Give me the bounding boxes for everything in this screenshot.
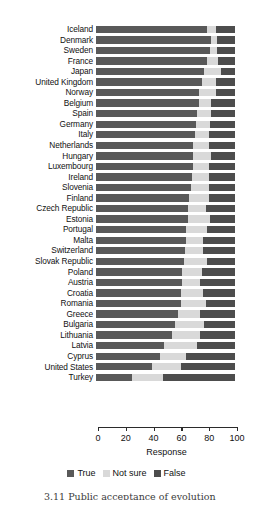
- chart-row: Iceland: [0, 24, 253, 35]
- chart-rows: IcelandDenmarkSwedenFranceJapanUnited Ki…: [0, 24, 253, 383]
- x-axis-tick-label: 40: [149, 432, 159, 444]
- segment-false: [209, 131, 235, 138]
- segment-true: [96, 321, 175, 328]
- chart-row: France: [0, 56, 253, 67]
- segment-false: [203, 237, 235, 244]
- category-label: Portugal: [0, 224, 96, 235]
- stacked-bar: [96, 247, 235, 254]
- segment-true: [96, 121, 196, 128]
- x-axis-tick-label: 0: [95, 432, 100, 444]
- category-label: Estonia: [0, 214, 96, 225]
- segment-false: [197, 342, 235, 349]
- category-label: Italy: [0, 129, 96, 140]
- segment-true: [96, 279, 182, 286]
- chart-row: Cyprus: [0, 351, 253, 362]
- stacked-bar: [96, 363, 235, 370]
- segment-false: [206, 205, 235, 212]
- segment-not-sure: [202, 78, 216, 85]
- segment-true: [96, 205, 188, 212]
- stacked-bar: [96, 68, 235, 75]
- stacked-bar: [96, 215, 235, 222]
- chart-row: Norway: [0, 87, 253, 98]
- segment-not-sure: [207, 26, 215, 33]
- segment-not-sure: [199, 89, 216, 96]
- segment-true: [96, 68, 204, 75]
- legend-swatch-icon: [67, 470, 74, 477]
- chart-row: Switzerland: [0, 245, 253, 256]
- x-axis-line: [98, 427, 237, 428]
- stacked-bar: [96, 89, 235, 96]
- legend-item: True: [67, 468, 95, 478]
- stacked-bar: [96, 47, 235, 54]
- chart-row: Slovak Republic: [0, 256, 253, 267]
- segment-false: [209, 194, 235, 201]
- segment-false: [209, 184, 235, 191]
- segment-not-sure: [182, 279, 200, 286]
- segment-not-sure: [152, 363, 181, 370]
- segment-true: [96, 163, 193, 170]
- stacked-bar: [96, 237, 235, 244]
- stacked-bar: [96, 26, 235, 33]
- category-label: Germany: [0, 119, 96, 130]
- x-axis-tick-label: 60: [176, 432, 186, 444]
- segment-false: [203, 289, 235, 296]
- legend-swatch-icon: [154, 470, 161, 477]
- stacked-bar: [96, 289, 235, 296]
- category-label: Cyprus: [0, 351, 96, 362]
- stacked-bar: [96, 353, 235, 360]
- x-axis-title: Response: [96, 447, 237, 457]
- stacked-bar: [96, 226, 235, 233]
- chart-row: Bulgaria: [0, 319, 253, 330]
- segment-not-sure: [178, 310, 200, 317]
- segment-true: [96, 26, 207, 33]
- segment-false: [200, 331, 235, 338]
- segment-not-sure: [186, 237, 203, 244]
- stacked-bar: [96, 57, 235, 64]
- category-label: Croatia: [0, 288, 96, 299]
- chart-row: Malta: [0, 235, 253, 246]
- stacked-bar: [96, 342, 235, 349]
- segment-not-sure: [181, 300, 206, 307]
- segment-false: [209, 142, 235, 149]
- segment-not-sure: [185, 247, 203, 254]
- segment-not-sure: [197, 110, 211, 117]
- chart-row: Belgium: [0, 98, 253, 109]
- segment-not-sure: [188, 215, 210, 222]
- category-label: Denmark: [0, 35, 96, 46]
- stacked-bar: [96, 321, 235, 328]
- category-label: Netherlands: [0, 140, 96, 151]
- chart-row: Finland: [0, 193, 253, 204]
- segment-false: [211, 152, 235, 159]
- segment-true: [96, 258, 184, 265]
- stacked-bar: [96, 110, 235, 117]
- chart-row: United States: [0, 362, 253, 373]
- segment-not-sure: [210, 47, 217, 54]
- stacked-bar: [96, 163, 235, 170]
- category-label: Greece: [0, 309, 96, 320]
- x-axis-tick: [237, 427, 238, 431]
- segment-not-sure: [182, 268, 201, 275]
- segment-false: [216, 89, 235, 96]
- stacked-bar: [96, 194, 235, 201]
- category-label: Iceland: [0, 24, 96, 35]
- chart-row: Germany: [0, 119, 253, 130]
- segment-true: [96, 110, 197, 117]
- figure-caption: 3.11 Public acceptance of evolution: [44, 491, 253, 500]
- segment-not-sure: [172, 331, 200, 338]
- stacked-bar: [96, 121, 235, 128]
- segment-true: [96, 353, 160, 360]
- category-label: Ireland: [0, 172, 96, 183]
- segment-false: [210, 121, 235, 128]
- stacked-bar: [96, 36, 235, 43]
- stacked-bar: [96, 99, 235, 106]
- segment-true: [96, 237, 186, 244]
- category-label: Bulgaria: [0, 319, 96, 330]
- segment-not-sure: [199, 99, 212, 106]
- segment-true: [96, 78, 202, 85]
- category-label: Slovak Republic: [0, 256, 96, 267]
- segment-false: [211, 99, 235, 106]
- segment-false: [216, 78, 235, 85]
- stacked-bar: [96, 78, 235, 85]
- segment-false: [209, 173, 235, 180]
- stacked-bar: [96, 300, 235, 307]
